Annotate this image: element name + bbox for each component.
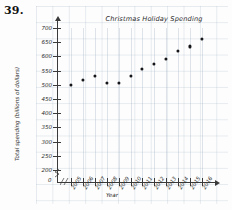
y-axis-tick <box>53 56 61 57</box>
y-axis-title: Total spending (billions of dollars) <box>14 54 20 174</box>
y-axis-tick-label: 200 <box>32 167 52 173</box>
y-axis-tick-label: 700 <box>32 25 52 31</box>
data-point <box>105 82 108 85</box>
y-axis-tick-label: 250 <box>32 153 52 159</box>
problem-number: 39. <box>4 4 24 17</box>
vertical-gridline <box>166 28 167 182</box>
x-axis-title: Year <box>106 192 118 198</box>
y-axis-tick-label: 600 <box>32 53 52 59</box>
y-axis-tick <box>53 99 61 100</box>
x-axis-break-icon <box>60 178 70 186</box>
y-axis-tick <box>53 142 61 143</box>
vertical-gridline <box>71 28 72 182</box>
y-axis-tick <box>53 28 61 29</box>
vertical-gridline <box>119 28 120 182</box>
y-axis-tick <box>53 71 61 72</box>
y-axis-arrow-icon <box>55 16 61 21</box>
x-axis-arrow-icon <box>215 180 220 186</box>
data-point <box>69 83 72 86</box>
data-point <box>129 74 132 77</box>
y-axis-tick-label: 400 <box>32 110 52 116</box>
data-point <box>177 49 180 52</box>
data-point <box>165 57 168 60</box>
vertical-gridline <box>83 28 84 182</box>
data-point <box>153 63 156 66</box>
worksheet-page: 39. Christmas Holiday Spending Total spe… <box>0 0 232 210</box>
y-axis-tick-label: 350 <box>32 124 52 130</box>
y-axis-tick-label: 500 <box>32 82 52 88</box>
y-axis-tick-label: 650 <box>32 39 52 45</box>
y-axis-tick <box>53 42 61 43</box>
y-axis-tick <box>53 156 61 157</box>
vertical-gridline <box>142 28 143 182</box>
data-point <box>200 38 203 41</box>
data-point <box>188 45 191 48</box>
y-axis-tick <box>53 127 61 128</box>
data-point <box>93 75 96 78</box>
y-axis-tick <box>53 85 61 86</box>
y-axis-tick-label: 450 <box>32 96 52 102</box>
chart-title: Christmas Holiday Spending <box>84 15 224 23</box>
vertical-gridline <box>202 28 203 182</box>
data-point <box>117 81 120 84</box>
vertical-gridline <box>107 28 108 182</box>
y-axis-line <box>57 20 58 182</box>
origin-label: 0 <box>48 177 51 183</box>
vertical-gridline <box>190 28 191 182</box>
y-axis-tick <box>53 170 61 171</box>
data-point <box>141 67 144 70</box>
data-point <box>81 78 84 81</box>
vertical-gridline <box>95 28 96 182</box>
vertical-gridline <box>131 28 132 182</box>
y-axis-tick-label: 550 <box>32 68 52 74</box>
y-axis-tick <box>53 113 61 114</box>
y-axis-tick-label: 300 <box>32 139 52 145</box>
scatter-chart: Christmas Holiday Spending Total spendin… <box>36 6 228 204</box>
vertical-gridline <box>154 28 155 182</box>
